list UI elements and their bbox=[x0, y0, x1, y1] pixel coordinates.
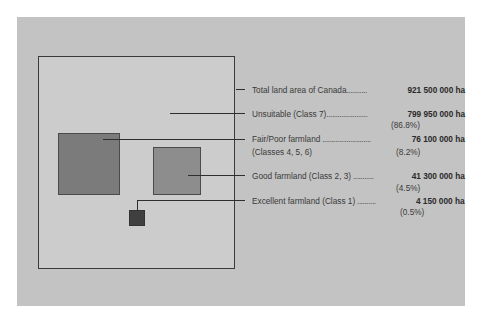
good-label: Good farmland (Class 2, 3) ........... bbox=[252, 170, 373, 182]
good-leader-dots: ........... bbox=[351, 170, 373, 181]
good-percent: (4.5%) bbox=[396, 182, 420, 194]
unsuitable-label: Unsuitable (Class 7)....................… bbox=[252, 108, 367, 120]
excellent-farmland-square bbox=[129, 210, 145, 226]
excellent-percent: (0.5%) bbox=[400, 206, 424, 218]
fair-poor-label-text: Fair/Poor farmland bbox=[252, 133, 320, 144]
excellent-leader-line bbox=[137, 200, 245, 201]
fair-poor-leader-dots: .......................... bbox=[320, 133, 370, 144]
total-value: 921 500 000 ha bbox=[407, 84, 465, 96]
good-farmland-square bbox=[153, 147, 201, 195]
good-label-text: Good farmland (Class 2, 3) bbox=[252, 170, 351, 181]
fair-poor-label-line2: (Classes 4, 5, 6) bbox=[252, 146, 312, 158]
excellent-label-text: Excellent farmland (Class 1) bbox=[252, 195, 355, 206]
unsuitable-percent: (86.8%) bbox=[391, 119, 420, 131]
fair-poor-farmland-square bbox=[58, 133, 120, 195]
excellent-leader-drop bbox=[137, 200, 138, 211]
excellent-label: Excellent farmland (Class 1) .......... bbox=[252, 195, 376, 207]
unsuitable-label-text: Unsuitable (Class 7) bbox=[252, 108, 326, 119]
fair-poor-value: 76 100 000 ha bbox=[412, 133, 465, 145]
unsuitable-leader-line bbox=[170, 113, 245, 114]
fair-poor-percent: (8.2%) bbox=[396, 146, 420, 158]
total-label: Total land area of Canada........... bbox=[252, 84, 367, 96]
good-value: 41 300 000 ha bbox=[412, 170, 465, 182]
fair-poor-label: Fair/Poor farmland .....................… bbox=[252, 133, 371, 145]
total-leader-line bbox=[236, 89, 245, 90]
good-leader-line bbox=[188, 175, 245, 176]
fair-poor-leader-line bbox=[103, 139, 245, 140]
unsuitable-leader-dots: ...................... bbox=[326, 108, 367, 119]
total-leader-dots: ........... bbox=[346, 84, 366, 95]
total-label-text: Total land area of Canada bbox=[252, 84, 346, 95]
excellent-leader-dots: .......... bbox=[355, 195, 375, 206]
